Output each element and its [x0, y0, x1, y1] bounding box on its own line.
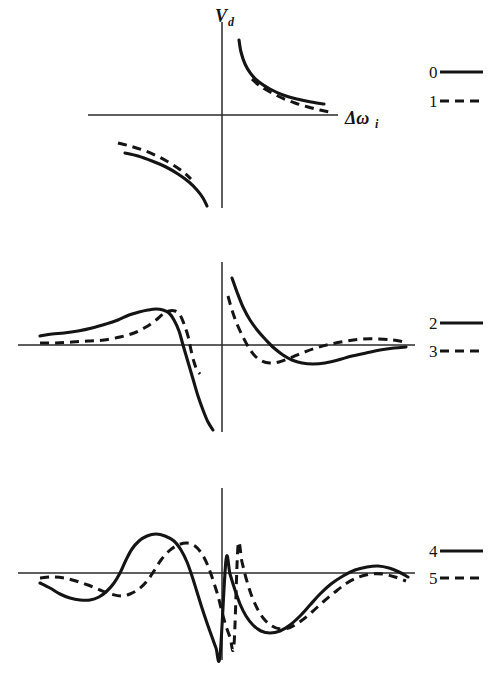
bottom-panel: 45: [18, 488, 483, 661]
curve-3-right-lobe: [228, 296, 404, 363]
legend-label-1: 1: [429, 92, 438, 111]
top-panel: 01: [88, 22, 483, 208]
x-axis-label-subscript: i: [375, 117, 379, 131]
curve-2-left-lobe: [40, 309, 213, 430]
curve-0-upper-right: [239, 40, 324, 104]
legend-label-0: 0: [429, 63, 438, 82]
panels-group: 012345: [18, 22, 483, 661]
legend-label-4: 4: [429, 542, 438, 561]
discriminator-characteristics-figure: V d Δω i 012345: [0, 0, 490, 680]
legend-label-3: 3: [429, 342, 438, 361]
y-axis-label-subscript: d: [228, 15, 235, 29]
figure-container: V d Δω i 012345: [0, 0, 490, 680]
curve-4-oscillating: [40, 534, 408, 661]
middle-panel: 23: [18, 262, 483, 432]
legend-label-2: 2: [429, 314, 438, 333]
axis-titles-group: V d Δω i: [215, 6, 379, 131]
curve-2-right-lobe: [232, 278, 406, 364]
x-axis-label: Δω: [344, 108, 369, 128]
legend-label-5: 5: [429, 569, 438, 588]
